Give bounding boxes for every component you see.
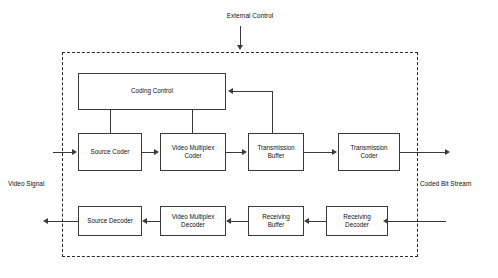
video-in-line (53, 152, 73, 153)
vmuxdec-to-sourcedec-arrowhead (142, 218, 147, 224)
rdecoder-to-rbuffer-line (309, 221, 326, 222)
buffer-feedback-arrowhead (228, 88, 233, 94)
coding-control-box: Coding Control (78, 73, 226, 110)
video-out-line (48, 221, 78, 222)
coded-in-line (388, 221, 446, 222)
vmux-to-buffer-arrowhead (242, 149, 247, 155)
coded-out-line (400, 152, 446, 153)
receiving-decoder-box: Receiving Decoder (326, 206, 388, 236)
external-control-arrowhead (237, 45, 243, 50)
source-coder-box: Source Coder (78, 133, 142, 171)
video-multiplex-decoder-box: Video Multiplex Decoder (160, 206, 226, 236)
coding-control-to-vmux-line (192, 110, 193, 133)
video-in-arrowhead (72, 149, 77, 155)
source-decoder-box: Source Decoder (78, 206, 142, 236)
coding-control-to-source-coder-line (110, 110, 111, 133)
video-multiplex-coder-box: Video Multiplex Coder (160, 133, 226, 171)
rdecoder-to-rbuffer-arrowhead (304, 218, 309, 224)
video-signal-label: Video Signal (8, 180, 68, 188)
external-control-label: External Control (210, 12, 290, 20)
rbuffer-to-vmuxdec-arrowhead (226, 218, 231, 224)
transmission-coder-box: Transmission Coder (338, 133, 400, 171)
coded-bit-stream-label: Coded Bit Stream (420, 180, 492, 188)
video-out-arrowhead (43, 218, 48, 224)
source-to-vmux-arrowhead (154, 149, 159, 155)
external-control-line (240, 26, 241, 46)
buffer-feedback-hline (233, 91, 272, 92)
coded-out-arrowhead (445, 149, 450, 155)
diagram-canvas: External Control Coding Control Source C… (0, 0, 498, 278)
coded-in-arrowhead (383, 218, 388, 224)
transmission-buffer-box: Transmission Buffer (248, 133, 304, 171)
receiving-buffer-box: Receiving Buffer (248, 206, 304, 236)
buffer-to-coder-arrowhead (332, 149, 337, 155)
buffer-to-coder-line (304, 152, 333, 153)
rbuffer-to-vmuxdec-line (231, 221, 248, 222)
vmux-to-buffer-line (226, 152, 243, 153)
vmuxdec-to-sourcedec-line (147, 221, 160, 222)
